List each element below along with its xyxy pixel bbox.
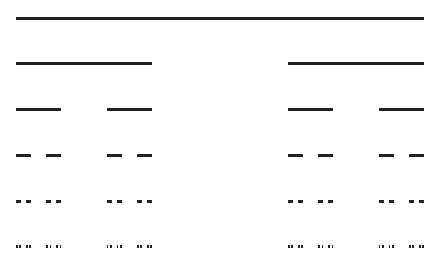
cantor-segment (26, 245, 28, 248)
cantor-segment (301, 245, 303, 248)
cantor-segment (19, 245, 21, 248)
cantor-segment (419, 245, 421, 248)
cantor-level-5 (0, 0, 431, 264)
cantor-segment (409, 245, 411, 248)
cantor-segment (16, 245, 18, 248)
cantor-segment (298, 245, 300, 248)
cantor-segment (46, 245, 48, 248)
cantor-segment (117, 245, 119, 248)
cantor-segment (332, 245, 334, 248)
cantor-segment (322, 245, 324, 248)
cantor-segment (379, 245, 381, 248)
cantor-segment (389, 245, 391, 248)
cantor-segment (288, 245, 290, 248)
cantor-segment (60, 245, 62, 248)
cantor-segment (147, 245, 149, 248)
cantor-segment (328, 245, 330, 248)
cantor-segment (120, 245, 122, 248)
cantor-segment (318, 245, 320, 248)
cantor-segment (150, 245, 152, 248)
cantor-segment (382, 245, 384, 248)
cantor-set-diagram (0, 0, 431, 264)
cantor-segment (422, 245, 424, 248)
cantor-segment (110, 245, 112, 248)
cantor-segment (140, 245, 142, 248)
cantor-segment (392, 245, 394, 248)
cantor-segment (291, 245, 293, 248)
cantor-segment (412, 245, 414, 248)
cantor-segment (137, 245, 139, 248)
cantor-segment (50, 245, 52, 248)
cantor-segment (107, 245, 109, 248)
cantor-segment (56, 245, 58, 248)
cantor-segment (29, 245, 31, 248)
